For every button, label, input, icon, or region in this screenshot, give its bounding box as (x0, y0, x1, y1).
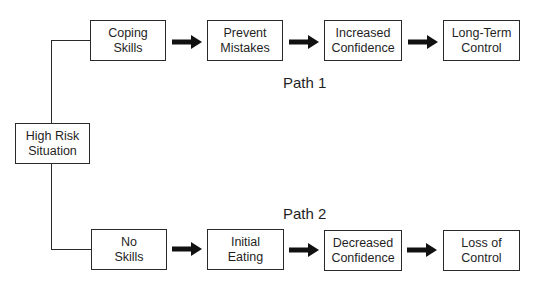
node-prevent-mistakes: Prevent Mistakes (207, 20, 283, 61)
node-label-line2: Skills (113, 41, 142, 56)
node-label-line2: Control (461, 251, 501, 266)
node-loss-of-control: Loss of Control (443, 230, 520, 271)
node-label-line1: Initial (231, 235, 260, 250)
node-label-line1: Loss of (461, 236, 501, 251)
path-2-label: Path 2 (283, 206, 326, 222)
node-long-term-control: Long-Term Control (443, 20, 520, 61)
node-decreased-confidence: Decreased Confidence (324, 230, 402, 271)
right-arrow-icon (408, 35, 438, 49)
node-initial-eating: Initial Eating (207, 229, 284, 270)
node-label-line1: Increased (336, 26, 391, 41)
right-arrow-icon (407, 243, 437, 257)
right-arrow-icon (289, 243, 319, 257)
node-coping-skills: Coping Skills (90, 20, 166, 61)
right-arrow-icon (172, 242, 202, 256)
node-label-line1: High Risk (26, 129, 80, 144)
node-label-line2: Skills (114, 250, 143, 265)
node-label-line1: Long-Term (452, 26, 512, 41)
node-no-skills: No Skills (91, 229, 167, 270)
node-label-line2: Situation (28, 144, 77, 159)
node-label-line2: Mistakes (220, 41, 269, 56)
node-label-line2: Eating (228, 250, 263, 265)
right-arrow-icon (289, 35, 319, 49)
path-1-label: Path 1 (283, 75, 326, 91)
node-label-line2: Confidence (331, 251, 394, 266)
node-label-line1: No (121, 235, 137, 250)
connector-path2-horizontal (51, 249, 91, 250)
connector-path1-horizontal (51, 40, 91, 41)
node-label-line1: Prevent (223, 26, 266, 41)
flow-diagram: High Risk Situation Coping Skills Preven… (0, 0, 534, 283)
node-high-risk-situation: High Risk Situation (15, 123, 90, 164)
node-label-line2: Control (461, 41, 501, 56)
node-increased-confidence: Increased Confidence (324, 20, 402, 61)
node-label-line2: Confidence (331, 41, 394, 56)
node-label-line1: Coping (108, 26, 148, 41)
right-arrow-icon (172, 35, 202, 49)
node-label-line1: Decreased (333, 236, 393, 251)
